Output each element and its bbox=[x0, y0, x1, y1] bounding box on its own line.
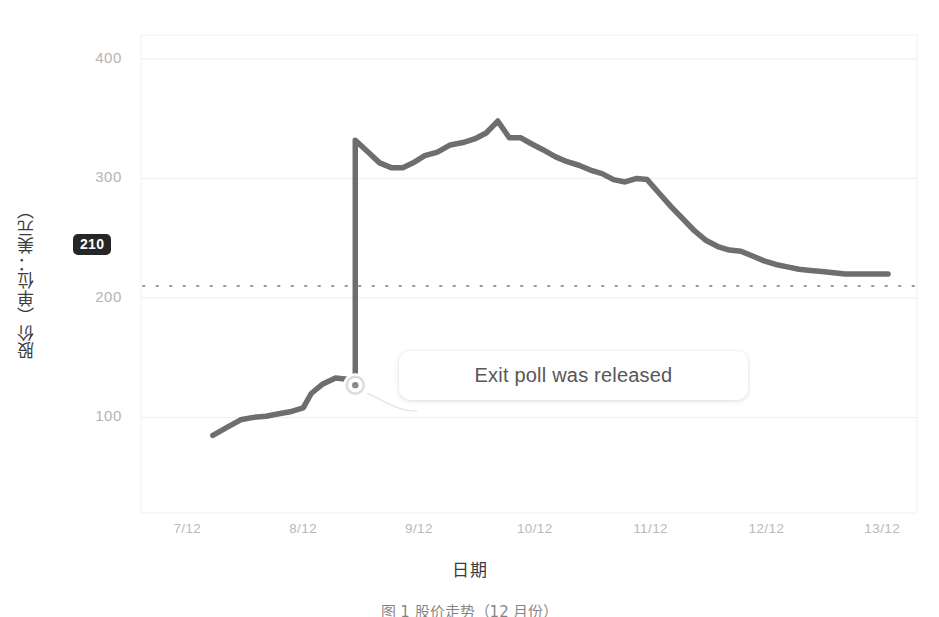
x-axis-title: 日期 bbox=[0, 556, 939, 581]
x-axis-tick-label: 8/12 bbox=[263, 521, 343, 536]
figure-caption: 图 1 股价走势（12 月份） bbox=[0, 600, 939, 617]
y-axis-title: 股价（单位：美元） bbox=[6, 120, 46, 440]
y-axis-tick-label: 400 bbox=[60, 49, 122, 66]
x-axis-tick-label: 7/12 bbox=[147, 521, 227, 536]
y-axis-tick-label: 300 bbox=[60, 168, 122, 185]
figure-container: 股价（单位：美元） 日期 100200300400 7/128/129/1210… bbox=[0, 0, 939, 617]
x-axis-tick-label: 10/12 bbox=[495, 521, 575, 536]
plot-area bbox=[141, 35, 917, 513]
reference-value-badge: 210 bbox=[73, 234, 111, 255]
y-axis-tick-label: 100 bbox=[60, 407, 122, 424]
x-axis-tick-label: 13/12 bbox=[842, 521, 922, 536]
annotation-tooltip[interactable]: Exit poll was released bbox=[399, 351, 748, 400]
x-axis-tick-label: 12/12 bbox=[726, 521, 806, 536]
annotation-tooltip-text: Exit poll was released bbox=[475, 364, 673, 387]
x-axis-tick-label: 9/12 bbox=[379, 521, 459, 536]
annotation-marker[interactable] bbox=[343, 373, 367, 397]
y-axis-tick-label: 200 bbox=[60, 288, 122, 305]
x-axis-tick-label: 11/12 bbox=[611, 521, 691, 536]
